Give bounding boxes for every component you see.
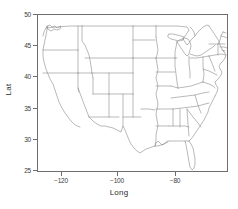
y-tick-label-40: 40 — [15, 73, 31, 80]
y-tick-mark — [33, 108, 37, 109]
y-tick-mark — [33, 139, 37, 140]
x-tick-label-minus120: −120 — [48, 177, 74, 184]
y-axis-title: Lat — [4, 70, 13, 110]
y-tick-mark — [33, 76, 37, 77]
y-tick-mark — [33, 14, 37, 15]
x-tick-mark — [117, 172, 118, 176]
y-tick-mark — [33, 170, 37, 171]
us-map-graphic — [37, 14, 228, 172]
x-tick-mark — [61, 172, 62, 176]
x-tick-mark — [175, 172, 176, 176]
x-tick-label-minus100: −100 — [104, 177, 130, 184]
y-tick-label-50: 50 — [15, 11, 31, 18]
y-tick-label-35: 35 — [15, 105, 31, 112]
y-tick-label-45: 45 — [15, 42, 31, 49]
x-axis-title: Long — [0, 188, 238, 197]
map-chart: 50 45 40 35 30 25 −120 −100 −80 Long Lat — [0, 0, 238, 209]
y-tick-label-30: 30 — [15, 136, 31, 143]
x-tick-label-minus80: −80 — [162, 177, 188, 184]
y-tick-mark — [33, 45, 37, 46]
y-tick-label-25: 25 — [15, 167, 31, 174]
